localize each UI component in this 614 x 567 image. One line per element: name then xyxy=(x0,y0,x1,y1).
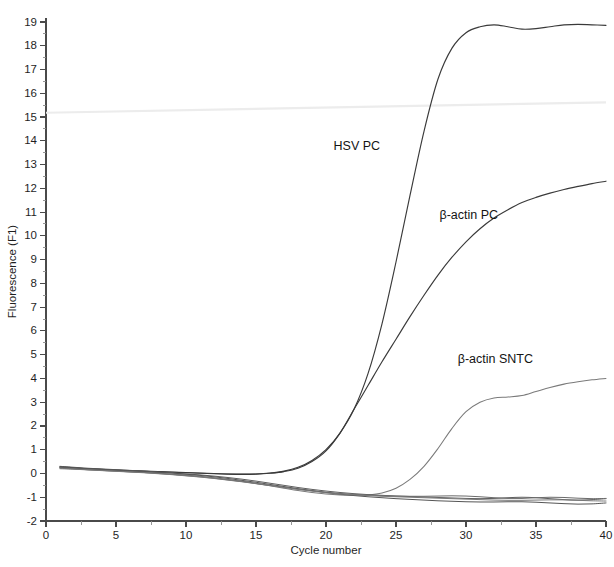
series-curve-hsv-pc xyxy=(60,24,606,474)
series-curve-baseline-4 xyxy=(60,469,606,501)
y-axis-title: Fluorescence (F1) xyxy=(6,225,18,318)
axis-titles-group: Cycle numberFluorescence (F1) xyxy=(6,225,362,556)
artifact-group xyxy=(46,102,606,112)
y-tick-label: 10 xyxy=(24,229,37,241)
x-tick-label: 15 xyxy=(250,529,263,541)
y-tick-label: 17 xyxy=(24,63,37,75)
chart-canvas: -2-1012345678910111213141516171819051015… xyxy=(0,0,614,567)
x-tick-label: 30 xyxy=(460,529,473,541)
x-tick-label: 20 xyxy=(320,529,333,541)
scan-artifact-line xyxy=(46,102,606,112)
y-tick-label: 4 xyxy=(31,372,38,384)
series-group xyxy=(60,24,606,504)
x-tick-label: 40 xyxy=(600,529,613,541)
x-axis-title: Cycle number xyxy=(291,544,362,556)
y-tick-label: 2 xyxy=(31,419,37,431)
y-tick-label: 19 xyxy=(24,16,37,28)
y-tick-label: -2 xyxy=(27,515,37,527)
y-tick-label: 7 xyxy=(31,301,37,313)
y-tick-label: 18 xyxy=(24,39,37,51)
x-tick-label: 5 xyxy=(113,529,119,541)
y-tick-label: 8 xyxy=(31,277,37,289)
annotation-group: HSV PCβ-actin PCβ-actin SNTC xyxy=(334,139,534,366)
y-tick-label: 16 xyxy=(24,87,37,99)
amplification-plot: -2-1012345678910111213141516171819051015… xyxy=(0,0,614,567)
y-tick-label: 12 xyxy=(24,182,37,194)
series-annotation-hsv-pc: HSV PC xyxy=(334,139,381,153)
y-tick-label: 9 xyxy=(31,253,37,265)
series-annotation-actin-sntc: β-actin SNTC xyxy=(458,352,533,366)
y-tick-label: 11 xyxy=(25,206,37,218)
axes-group: -2-1012345678910111213141516171819051015… xyxy=(24,16,612,541)
x-tick-label: 25 xyxy=(390,529,403,541)
x-tick-label: 10 xyxy=(180,529,193,541)
y-tick-label: 6 xyxy=(31,324,37,336)
y-tick-label: -1 xyxy=(27,491,37,503)
y-tick-label: 1 xyxy=(31,443,37,455)
y-tick-label: 14 xyxy=(24,134,37,146)
y-tick-label: 3 xyxy=(31,396,37,408)
y-tick-label: 15 xyxy=(24,111,37,123)
x-tick-label: 35 xyxy=(530,529,543,541)
y-tick-label: 0 xyxy=(31,467,37,479)
y-tick-label: 5 xyxy=(31,348,37,360)
series-curve-actin-pc xyxy=(60,181,606,474)
series-annotation-actin-pc: β-actin PC xyxy=(440,208,499,222)
x-tick-label: 0 xyxy=(43,529,49,541)
y-tick-label: 13 xyxy=(24,158,37,170)
series-curve-actin-sntc xyxy=(60,378,606,495)
